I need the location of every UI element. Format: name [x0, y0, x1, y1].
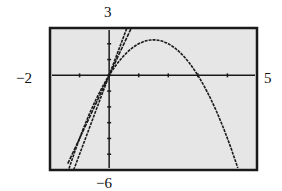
graph-screen: [0, 0, 282, 191]
